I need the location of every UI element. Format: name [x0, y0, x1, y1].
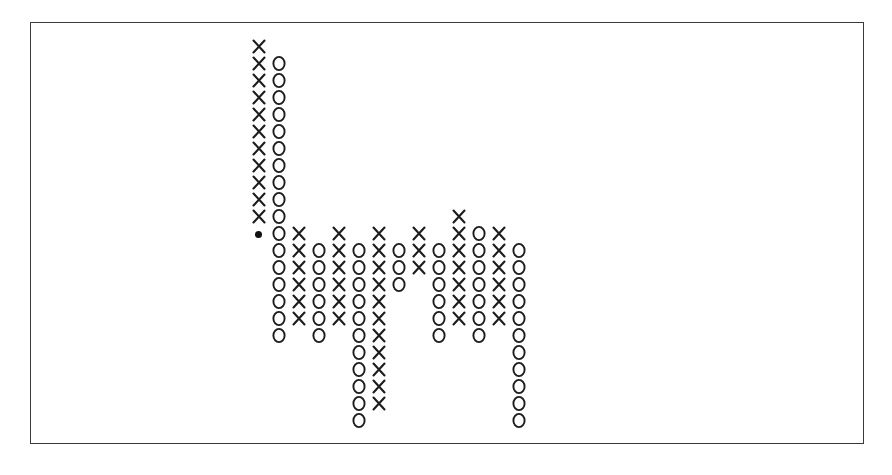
pf-symbol-o [269, 123, 289, 140]
pf-symbol-x [249, 55, 269, 72]
pf-symbol-o [509, 395, 529, 412]
pf-symbol-o [509, 242, 529, 259]
pf-symbol-o [429, 276, 449, 293]
pf-symbol-x [249, 106, 269, 123]
pf-symbol-o [269, 327, 289, 344]
pf-symbol-o [429, 327, 449, 344]
pf-symbol-x [449, 225, 469, 242]
pf-symbol-x [449, 310, 469, 327]
pf-symbol-x [329, 242, 349, 259]
pf-symbol-x [329, 293, 349, 310]
pf-symbol-o [349, 344, 369, 361]
pf-symbol-o [269, 293, 289, 310]
pf-symbol-x [489, 276, 509, 293]
pf-symbol-o [269, 157, 289, 174]
pf-symbol-o [349, 327, 369, 344]
pf-symbol-o [349, 378, 369, 395]
pf-symbol-o [269, 106, 289, 123]
screenshot-root [0, 0, 892, 475]
pf-symbol-x [489, 242, 509, 259]
pf-symbol-x [449, 293, 469, 310]
pf-symbol-x [489, 293, 509, 310]
pf-symbol-o [269, 259, 289, 276]
pf-symbol-o [509, 361, 529, 378]
pf-marker-dot [249, 225, 269, 242]
pf-symbol-o [469, 259, 489, 276]
pf-symbol-o [309, 327, 329, 344]
pf-symbol-o [509, 276, 529, 293]
pf-symbol-o [469, 242, 489, 259]
pf-symbol-x [369, 310, 389, 327]
pf-symbol-o [349, 395, 369, 412]
pf-symbol-o [349, 276, 369, 293]
pf-symbol-x [369, 395, 389, 412]
pf-symbol-o [269, 89, 289, 106]
pf-symbol-o [269, 276, 289, 293]
pf-symbol-x [449, 259, 469, 276]
pf-symbol-x [249, 191, 269, 208]
pf-symbol-o [349, 361, 369, 378]
pf-symbol-x [289, 276, 309, 293]
pf-symbol-x [409, 259, 429, 276]
pf-symbol-o [349, 310, 369, 327]
pf-symbol-x [329, 310, 349, 327]
pf-symbol-x [369, 293, 389, 310]
chart-frame [30, 22, 864, 444]
pf-symbol-o [509, 412, 529, 429]
pf-symbol-o [509, 293, 529, 310]
pf-symbol-o [469, 225, 489, 242]
pf-symbol-x [369, 327, 389, 344]
pf-symbol-o [269, 72, 289, 89]
pf-symbol-o [269, 310, 289, 327]
pf-symbol-x [249, 72, 269, 89]
pf-symbol-x [329, 276, 349, 293]
pf-symbol-x [369, 225, 389, 242]
pf-symbol-o [309, 310, 329, 327]
pf-symbol-o [349, 259, 369, 276]
pf-symbol-x [369, 344, 389, 361]
pf-symbol-x [289, 293, 309, 310]
pf-symbol-o [349, 242, 369, 259]
pf-symbol-x [289, 259, 309, 276]
pf-symbol-o [269, 174, 289, 191]
pf-symbol-x [289, 225, 309, 242]
pf-symbol-x [369, 361, 389, 378]
pf-symbol-x [489, 225, 509, 242]
pf-symbol-o [269, 242, 289, 259]
pf-symbol-o [509, 327, 529, 344]
pf-symbol-x [249, 38, 269, 55]
pf-symbol-o [509, 310, 529, 327]
pf-symbol-o [469, 276, 489, 293]
pf-symbol-o [469, 310, 489, 327]
pf-symbol-o [429, 310, 449, 327]
pf-symbol-x [289, 310, 309, 327]
pf-symbol-o [389, 276, 409, 293]
pf-symbol-o [389, 259, 409, 276]
pf-symbol-x [369, 259, 389, 276]
pf-symbol-o [429, 242, 449, 259]
pf-symbol-x [369, 242, 389, 259]
pf-symbol-x [249, 174, 269, 191]
pf-symbol-o [309, 242, 329, 259]
pf-symbol-x [249, 157, 269, 174]
pf-symbol-o [309, 293, 329, 310]
pf-symbol-o [269, 55, 289, 72]
pf-symbol-x [449, 276, 469, 293]
pf-symbol-x [369, 276, 389, 293]
pf-symbol-o [309, 259, 329, 276]
pf-symbol-o [269, 140, 289, 157]
pf-symbol-x [369, 378, 389, 395]
pf-symbol-o [349, 412, 369, 429]
pf-symbol-x [449, 208, 469, 225]
pf-symbol-o [509, 344, 529, 361]
pf-symbol-o [269, 191, 289, 208]
pf-symbol-o [349, 293, 369, 310]
pf-symbol-x [489, 259, 509, 276]
pf-symbol-x [489, 310, 509, 327]
pf-symbol-x [449, 242, 469, 259]
pf-symbol-x [329, 225, 349, 242]
plot-area [31, 23, 863, 443]
pf-symbol-o [269, 208, 289, 225]
pf-symbol-o [509, 378, 529, 395]
pf-symbol-o [469, 293, 489, 310]
